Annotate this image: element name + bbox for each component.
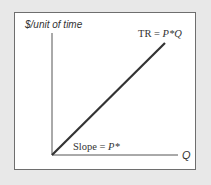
- y-axis-label: $/unit of time: [25, 20, 82, 30]
- tr-prefix: TR =: [138, 28, 163, 39]
- slope-label: Slope = P*: [73, 142, 120, 153]
- x-axis-label: Q: [182, 150, 191, 161]
- tr-formula: P*Q: [163, 28, 182, 39]
- tr-curve-label: TR = P*Q: [138, 29, 182, 40]
- slope-prefix: Slope =: [73, 141, 108, 152]
- total-revenue-line: [52, 43, 165, 155]
- slope-value: P*: [108, 141, 120, 152]
